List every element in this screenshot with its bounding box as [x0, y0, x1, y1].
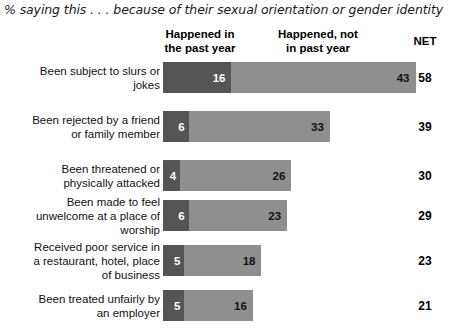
row-label: Been treated unfairly byan employer [4, 292, 160, 320]
row-label-line-3: worship [4, 223, 160, 237]
bar-value-past-year: 5 [174, 300, 184, 312]
row-label: Received poor service ina restaurant, ho… [4, 240, 160, 282]
chart-container: % saying this . . . because of their sex… [0, 0, 452, 329]
net-value: 23 [404, 254, 446, 268]
row-label-line-2: or family member [4, 127, 160, 141]
row-label: Been made to feelunwelcome at a place of… [4, 195, 160, 237]
bar-segment-not-past-year: 33 [189, 111, 330, 142]
bar-segment-past-year: 5 [163, 245, 184, 276]
stacked-bar: 516 [163, 290, 253, 321]
row-label-line-2: a restaurant, hotel, place [4, 254, 160, 268]
net-value: 29 [404, 209, 446, 223]
row-label-line-2: physically attacked [4, 176, 160, 190]
bar-segment-past-year: 4 [163, 160, 180, 191]
net-value: 39 [404, 120, 446, 134]
row-label-line-1: Been rejected by a friend [4, 113, 160, 127]
row-label-line-1: Been treated unfairly by [4, 292, 160, 306]
bar-value-past-year: 6 [178, 121, 188, 133]
net-value: 30 [404, 169, 446, 183]
row-label: Been rejected by a friendor family membe… [4, 113, 160, 141]
stacked-bar: 1643 [163, 62, 416, 93]
bar-value-not-past-year: 18 [243, 255, 262, 267]
bar-segment-past-year: 6 [163, 111, 189, 142]
stacked-bar: 426 [163, 160, 291, 191]
row-label-line-1: Been subject to slurs or [4, 64, 160, 78]
row-label: Been subject to slurs orjokes [4, 64, 160, 92]
bar-segment-not-past-year: 43 [231, 62, 415, 93]
row-label-line-3: of business [4, 268, 160, 282]
row-label-line-2: unwelcome at a place of [4, 209, 160, 223]
row-label-line-1: Been made to feel [4, 195, 160, 209]
net-value: 58 [404, 71, 446, 85]
bar-segment-past-year: 5 [163, 290, 184, 321]
bar-segment-past-year: 6 [163, 200, 189, 231]
bar-segment-not-past-year: 23 [189, 200, 287, 231]
bar-value-past-year: 4 [170, 170, 180, 182]
row-label: Been threatened orphysically attacked [4, 162, 160, 190]
row-label-line-1: Been threatened or [4, 162, 160, 176]
bar-value-past-year: 5 [174, 255, 184, 267]
bar-value-not-past-year: 16 [234, 300, 253, 312]
stacked-bar: 633 [163, 111, 330, 142]
row-label-line-1: Received poor service in [4, 240, 160, 254]
bar-value-not-past-year: 23 [268, 210, 287, 222]
bar-value-past-year: 16 [213, 72, 232, 84]
stacked-bar: 518 [163, 245, 261, 276]
bar-value-past-year: 6 [178, 210, 188, 222]
bar-segment-past-year: 16 [163, 62, 231, 93]
stacked-bar: 623 [163, 200, 287, 231]
row-label-line-2: an employer [4, 306, 160, 320]
bar-value-not-past-year: 33 [311, 121, 330, 133]
net-value: 21 [404, 299, 446, 313]
bar-segment-not-past-year: 16 [184, 290, 252, 321]
bar-segment-not-past-year: 18 [184, 245, 261, 276]
row-label-line-2: jokes [4, 78, 160, 92]
bar-segment-not-past-year: 26 [180, 160, 291, 191]
bar-value-not-past-year: 26 [273, 170, 292, 182]
bar-rows: Been subject to slurs orjokes164358Been … [0, 0, 452, 329]
